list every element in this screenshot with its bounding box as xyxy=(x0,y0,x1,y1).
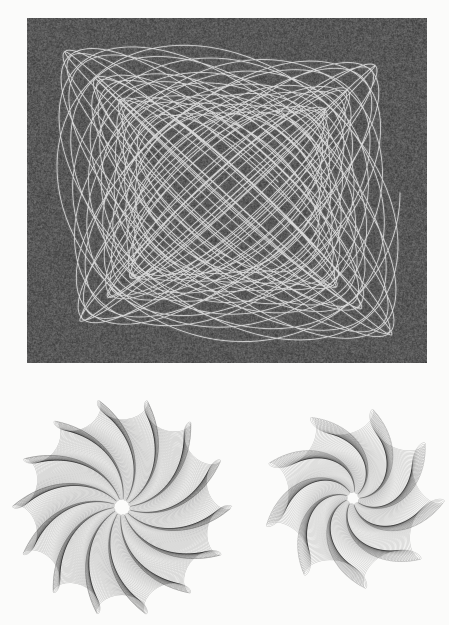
rosette-right-figure xyxy=(253,400,449,596)
book-page xyxy=(0,0,449,625)
oscillogram-figure xyxy=(27,18,427,363)
rosette-left-figure xyxy=(8,393,238,623)
